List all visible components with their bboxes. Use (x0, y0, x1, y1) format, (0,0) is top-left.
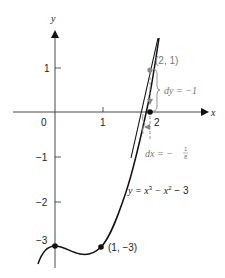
dx-frac-num: 1 (184, 146, 188, 152)
plot-canvas: y x 0 1 2 1 −1 −2 −3 dy = −1 dx = − 1 8 (0, 0, 225, 278)
cubic-curve (38, 38, 159, 264)
y-tick-label-neg1: −1 (36, 152, 48, 163)
x-tick-label-2: 2 (154, 117, 160, 128)
point-1-neg3 (98, 244, 104, 250)
dx-frac-den: 8 (184, 154, 188, 160)
x-tick-label-0: 0 (41, 117, 47, 128)
x-tick-label-1: 1 (100, 117, 106, 128)
point-bottom-label: (1, −3) (108, 242, 137, 253)
point-2-0 (147, 109, 153, 115)
y-tick-label-neg2: −2 (36, 197, 48, 208)
y-axis-label: y (50, 13, 56, 24)
y-tick-label-1: 1 (44, 63, 50, 74)
tangent-line (131, 38, 158, 158)
point-0-neg3 (52, 243, 58, 249)
point-2-1 (147, 67, 152, 72)
dy-label: dy = −1 (164, 85, 197, 96)
equation-label: y = x3 − x2 − 3 (127, 185, 189, 196)
point-top-label: (2, 1) (155, 55, 178, 66)
dx-label: dx = − (145, 148, 173, 159)
y-tick-label-neg3: −3 (36, 235, 48, 246)
x-axis-label: x (210, 107, 216, 118)
newton-method-figure: y x 0 1 2 1 −1 −2 −3 dy = −1 dx = − 1 8 (0, 0, 225, 278)
dy-brace (153, 69, 160, 111)
